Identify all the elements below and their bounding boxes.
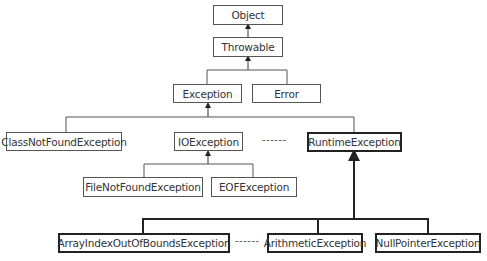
node-null-pointer-exception: NullPointerException	[375, 233, 481, 253]
node-io-exception: IOException	[174, 132, 243, 151]
node-eof-exception: EOFException	[211, 177, 297, 197]
node-exception: Exception	[173, 84, 242, 103]
node-arithmetic-exception: ArithmeticException	[267, 233, 363, 253]
node-object: Object	[213, 5, 283, 25]
node-error: Error	[252, 84, 321, 103]
exception-hierarchy-diagram: Object Throwable Exception Error ClassNo…	[0, 0, 487, 261]
node-class-not-found-exception: ClassNotFoundException	[6, 132, 122, 151]
node-file-not-found-exception: FileNotFoundException	[83, 177, 203, 197]
node-array-index-out-of-bounds-exception: ArrayIndexOutOfBoundsException	[58, 233, 230, 253]
ellipsis-more-exceptions: ------	[262, 134, 287, 145]
ellipsis-more-runtime-exceptions: ------	[235, 235, 260, 246]
node-throwable: Throwable	[213, 37, 283, 57]
node-runtime-exception: RuntimeException	[307, 132, 402, 152]
